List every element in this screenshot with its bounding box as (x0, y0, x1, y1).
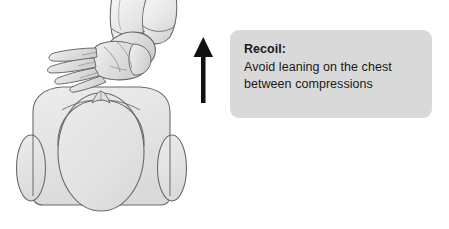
callout-text-block: Recoil: Avoid leaning on the chest betwe… (244, 41, 424, 94)
torso-group (17, 87, 187, 211)
callout-line-2: between compressions (244, 76, 424, 94)
callout-title: Recoil: (244, 41, 424, 59)
right-arm (158, 135, 187, 201)
interlaced-hands (48, 32, 156, 92)
arrow-head (194, 37, 214, 57)
recoil-callout-box: Recoil: Avoid leaning on the chest betwe… (230, 30, 432, 118)
arrow-shaft (201, 52, 206, 103)
upward-recoil-arrow (194, 37, 214, 103)
left-arm (17, 135, 46, 201)
callout-line-1: Avoid leaning on the chest (244, 59, 424, 77)
illustration-canvas: Recoil: Avoid leaning on the chest betwe… (0, 0, 449, 229)
